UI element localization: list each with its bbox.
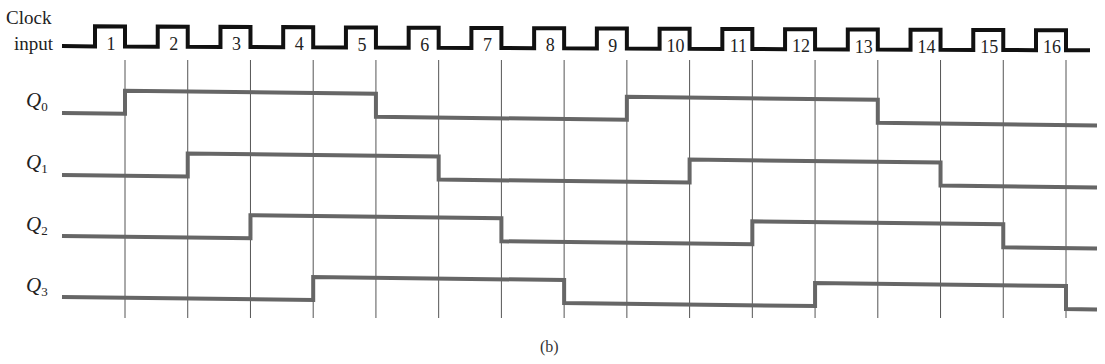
clock-pulse-number: 10	[667, 36, 685, 56]
timing-diagram: Clock input Q0 Q1 Q2 Q3 1234567891011121…	[0, 0, 1105, 364]
clock-pulse-number: 14	[918, 37, 936, 57]
clock-pulse-number: 16	[1043, 37, 1061, 57]
clock-pulse-number: 12	[792, 36, 810, 56]
signal-waveform-q1	[62, 154, 1097, 188]
clock-pulse-number: 7	[483, 35, 492, 55]
clock-pulse-number: 13	[855, 37, 873, 57]
clock-pulse-number: 15	[980, 37, 998, 57]
clock-pulse-number: 9	[608, 36, 617, 56]
clock-pulse-number: 3	[232, 34, 241, 54]
clock-pulse-number: 11	[730, 36, 747, 56]
waveform-canvas: 12345678910111213141516	[0, 0, 1105, 364]
figure-caption: (b)	[540, 338, 559, 356]
clock-pulse-number: 6	[420, 35, 429, 55]
clock-waveform	[62, 26, 1090, 50]
clock-pulse-number: 2	[169, 34, 178, 54]
signal-waveform-q0	[62, 91, 1097, 126]
clock-pulse-number: 1	[107, 34, 116, 54]
clock-pulse-number: 5	[357, 35, 366, 55]
clock-pulse-number: 8	[546, 35, 555, 55]
signal-waveform-q2	[62, 215, 1097, 248]
clock-pulse-number: 4	[295, 34, 304, 54]
signal-waveform-q3	[62, 277, 1097, 309]
